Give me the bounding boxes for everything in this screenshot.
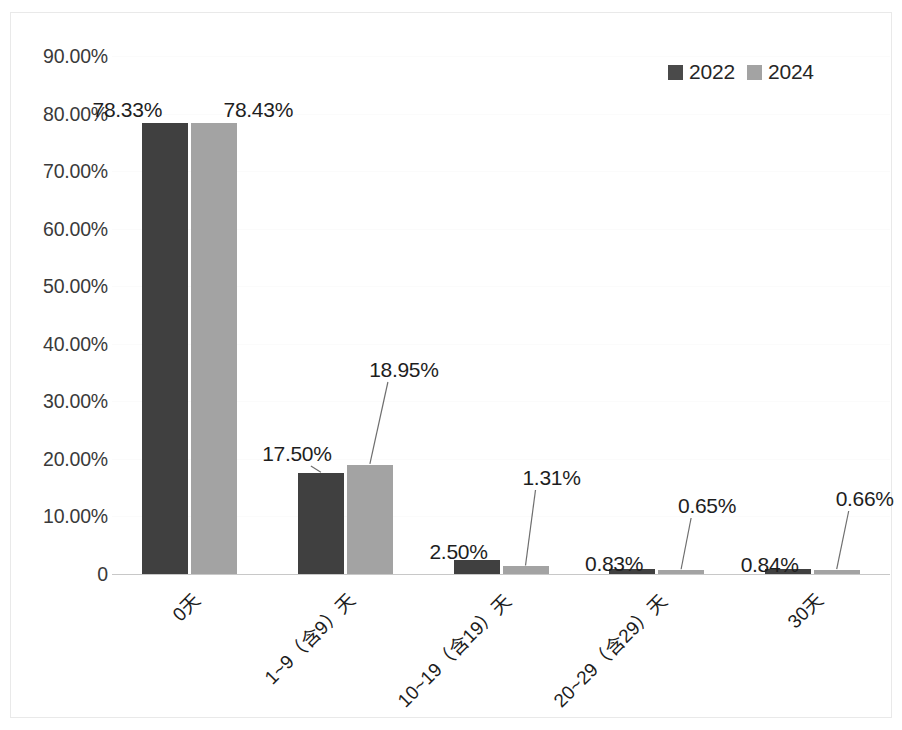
x-axis-label-4: 30天 (780, 586, 827, 633)
legend-swatch-icon (747, 65, 762, 80)
legend-item-2024[interactable]: 2024 (747, 60, 814, 84)
legend-swatch-icon (668, 65, 683, 80)
x-axis-label-0: 0天 (165, 586, 205, 626)
x-axis-labels: 0天1~9（含9）天10~19（含19）天20~29（含29）天30天 (0, 0, 902, 730)
legend-item-2022[interactable]: 2022 (668, 60, 735, 84)
x-axis-label-2: 10~19（含19）天 (390, 586, 516, 712)
bar-chart: 90.00%80.00%70.00%60.00%50.00%40.00%30.0… (0, 0, 902, 730)
legend: 2022 2024 (668, 60, 814, 84)
x-axis-label-3: 20~29（含29）天 (546, 586, 672, 712)
x-axis-label-1: 1~9（含9）天 (257, 586, 360, 689)
legend-label: 2024 (768, 60, 814, 84)
legend-label: 2022 (689, 60, 735, 84)
